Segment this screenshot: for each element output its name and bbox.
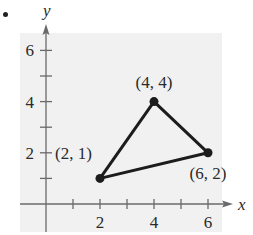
x-tick-label: 2: [96, 213, 105, 232]
vertex-point: [150, 97, 159, 106]
point-label: (2, 1): [55, 144, 92, 163]
x-axis-label: x: [237, 195, 246, 214]
coordinate-plot: 246246 (2, 1)(4, 4)(6, 2) x y: [0, 0, 253, 235]
y-tick-label: 2: [26, 144, 35, 163]
point-label: (4, 4): [136, 73, 173, 92]
point-label: (6, 2): [190, 164, 227, 183]
y-axis-label: y: [41, 1, 51, 20]
plot-background: [20, 33, 222, 232]
x-tick-label: 4: [150, 213, 159, 232]
y-tick-label: 4: [26, 93, 35, 112]
vertex-point: [96, 174, 105, 183]
vertex-point: [204, 148, 213, 157]
y-tick-label: 6: [26, 41, 35, 60]
x-tick-label: 6: [204, 213, 213, 232]
